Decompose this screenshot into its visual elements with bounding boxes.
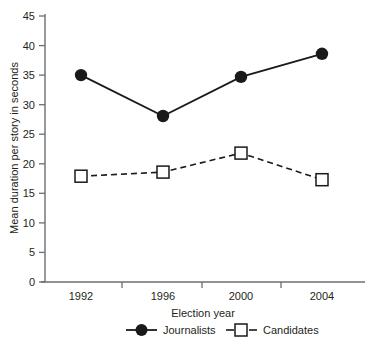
y-tick-label: 10 bbox=[23, 217, 35, 229]
y-axis-title: Mean duration per story in seconds bbox=[8, 62, 20, 234]
x-tick-label: 1992 bbox=[69, 290, 93, 302]
open-square-icon bbox=[235, 324, 247, 336]
legend-item-candidates[interactable]: Candidates bbox=[226, 324, 319, 336]
y-tick-label: 0 bbox=[29, 276, 35, 288]
x-tick-label: 1996 bbox=[151, 290, 175, 302]
legend-label-journalists: Journalists bbox=[163, 324, 216, 336]
line-chart: 0 5 10 15 20 25 30 35 40 45 Mean duratio… bbox=[0, 0, 371, 342]
candidates-marker bbox=[316, 174, 328, 186]
filled-circle-icon bbox=[136, 324, 148, 336]
candidates-marker bbox=[75, 170, 87, 182]
candidates-marker bbox=[235, 147, 247, 159]
x-tick-label: 2004 bbox=[310, 290, 334, 302]
journalists-marker bbox=[75, 69, 87, 81]
y-tick-label: 25 bbox=[23, 128, 35, 140]
candidates-marker bbox=[157, 166, 169, 178]
legend-item-journalists[interactable]: Journalists bbox=[126, 324, 216, 336]
x-axis-title: Election year bbox=[171, 307, 235, 319]
y-tick-label: 15 bbox=[23, 187, 35, 199]
y-tick-label: 45 bbox=[23, 10, 35, 22]
chart-container: 0 5 10 15 20 25 30 35 40 45 Mean duratio… bbox=[0, 0, 371, 342]
journalists-marker bbox=[316, 48, 328, 60]
y-tick-label: 30 bbox=[23, 99, 35, 111]
y-tick-label: 5 bbox=[29, 246, 35, 258]
y-tick-label: 20 bbox=[23, 158, 35, 170]
journalists-marker bbox=[157, 110, 169, 122]
y-tick-label: 35 bbox=[23, 69, 35, 81]
y-tick-label: 40 bbox=[23, 40, 35, 52]
journalists-marker bbox=[235, 71, 247, 83]
x-tick-label: 2000 bbox=[229, 290, 253, 302]
legend-label-candidates: Candidates bbox=[263, 324, 319, 336]
